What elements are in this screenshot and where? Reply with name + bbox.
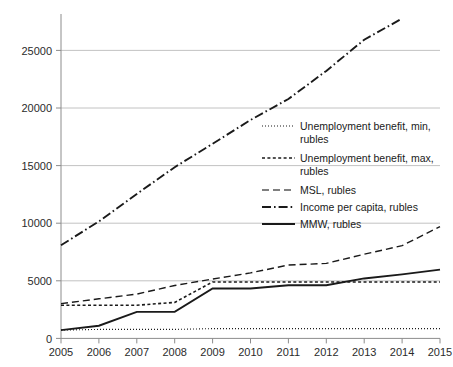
legend-item-mmw[interactable]: MMW, rubles <box>300 218 361 231</box>
legend-item-msl[interactable]: MSL, rubles <box>300 184 356 197</box>
x-tick-label: 2009 <box>200 346 224 358</box>
legend-label: Income per capita, rubles <box>300 201 418 213</box>
series-line-2 <box>61 227 440 304</box>
series-line-1 <box>61 282 440 305</box>
x-tick-label: 2010 <box>238 346 262 358</box>
x-tick-label: 2014 <box>390 346 414 358</box>
legend-item-unemployment-benefit-max[interactable]: Unemployment benefit, max, rubles <box>300 152 453 177</box>
y-tick-label: 20000 <box>21 102 52 114</box>
series-line-4 <box>61 270 440 330</box>
y-tick-marks <box>56 50 61 338</box>
x-tick-label: 2012 <box>314 346 338 358</box>
legend-swatch-group <box>262 126 295 224</box>
y-axis-labels: 25000 20000 15000 10000 5000 0 <box>21 45 52 345</box>
y-tick-label: 0 <box>46 333 52 345</box>
x-tick-label: 2008 <box>162 346 186 358</box>
line-chart: 25000 20000 15000 10000 5000 0 2005 2006… <box>0 0 453 367</box>
legend-item-income-per-capita[interactable]: Income per capita, rubles <box>300 201 418 214</box>
legend-label: Unemployment benefit, min, rubles <box>300 120 431 145</box>
series-line-0 <box>61 329 440 331</box>
x-tick-label: 2013 <box>352 346 376 358</box>
y-tick-label: 25000 <box>21 45 52 57</box>
x-axis-labels: 2005 2006 2007 2008 2009 2010 2011 2012 … <box>49 346 452 358</box>
y-tick-label: 5000 <box>28 275 52 287</box>
legend-label: MSL, rubles <box>300 184 356 196</box>
chart-canvas: 25000 20000 15000 10000 5000 0 2005 2006… <box>0 0 453 367</box>
x-tick-label: 2015 <box>428 346 452 358</box>
legend-label: MMW, rubles <box>300 218 361 230</box>
y-tick-label: 15000 <box>21 160 52 172</box>
legend-label: Unemployment benefit, max, rubles <box>300 152 434 177</box>
x-tick-label: 2006 <box>87 346 111 358</box>
y-tick-label: 10000 <box>21 217 52 229</box>
x-tick-label: 2007 <box>125 346 149 358</box>
x-tick-marks <box>61 338 440 343</box>
x-tick-label: 2011 <box>277 346 301 358</box>
legend-item-unemployment-benefit-min[interactable]: Unemployment benefit, min, rubles <box>300 120 453 145</box>
x-tick-label: 2005 <box>49 346 73 358</box>
